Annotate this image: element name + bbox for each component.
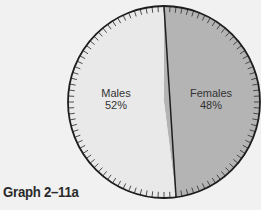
females-percent: 48%: [183, 99, 239, 111]
slice-label-males: Males 52%: [92, 87, 140, 111]
slice-label-females: Females 48%: [183, 87, 239, 111]
males-name: Males: [92, 87, 140, 99]
females-name: Females: [183, 87, 239, 99]
males-percent: 52%: [92, 99, 140, 111]
graph-caption: Graph 2–11a: [3, 183, 79, 200]
